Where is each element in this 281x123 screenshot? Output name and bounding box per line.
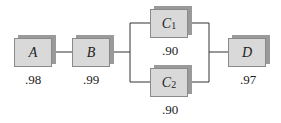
component-c2-face: C2 (150, 68, 188, 97)
reliability-c1: .90 (150, 43, 190, 59)
component-c2-subscript: 2 (171, 79, 176, 90)
component-d-label: D (242, 45, 252, 61)
reliability-d: .97 (228, 72, 268, 88)
reliability-b: .99 (71, 72, 111, 88)
component-d: D (228, 38, 266, 67)
component-a-face: A (14, 38, 52, 67)
component-b: B (72, 38, 110, 67)
component-c2-label: C (162, 75, 171, 91)
component-c2: C2 (150, 68, 188, 97)
component-b-face: B (72, 38, 110, 67)
reliability-a: .98 (13, 72, 53, 88)
component-c1-label: C (162, 16, 171, 32)
component-c1: C1 (150, 9, 188, 38)
component-a: A (14, 38, 52, 67)
reliability-c2: .90 (150, 102, 190, 118)
component-a-label: A (29, 45, 38, 61)
component-c1-subscript: 1 (171, 20, 176, 31)
component-b-label: B (87, 45, 96, 61)
component-c1-face: C1 (150, 9, 188, 38)
reliability-diagram: A .98 B .99 C1 .90 C2 .90 D .97 (0, 0, 281, 123)
component-d-face: D (228, 38, 266, 67)
